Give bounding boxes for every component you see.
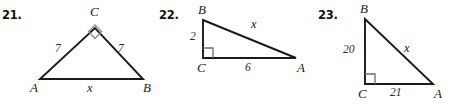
- vertex-label-23-B: B: [360, 2, 368, 15]
- right-angle-marker-23: [365, 74, 375, 84]
- vertex-label-23-A: A: [434, 87, 442, 100]
- side-label-23-base: 21: [390, 87, 402, 99]
- vertex-label-23-C: C: [358, 87, 367, 100]
- side-label-23-vertical: 20: [343, 44, 355, 56]
- triangle-figure-23: [0, 0, 456, 104]
- side-label-23-unknown: x: [404, 42, 410, 55]
- geometry-worksheet: 21. C A B 7 7 x 22. B C A 2 6 x 23.: [0, 0, 456, 104]
- problem-23: 23. B C A 20 21 x: [0, 0, 456, 104]
